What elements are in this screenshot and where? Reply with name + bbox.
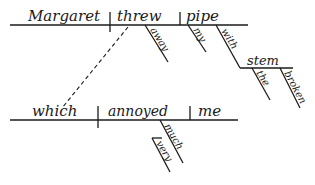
sentence-diagram: Margaret threw pipe away my with stem th…: [0, 0, 315, 185]
object-modifier-my: my: [191, 25, 209, 44]
stem-modifier-the: the: [254, 68, 272, 88]
diagram-canvas: Margaret threw pipe away my with stem th…: [0, 0, 315, 185]
verb-modifier-away: away: [148, 25, 171, 53]
preposition-with: with: [219, 26, 240, 51]
prep-object-stem: stem: [247, 53, 279, 68]
relative-connector: [62, 27, 128, 108]
relative-verb: annoyed: [108, 103, 168, 119]
main-subject: Margaret: [27, 7, 101, 25]
main-verb: threw: [117, 7, 162, 25]
main-object: pipe: [186, 7, 219, 25]
relative-subject: which: [32, 102, 77, 120]
relative-object: me: [198, 102, 221, 120]
